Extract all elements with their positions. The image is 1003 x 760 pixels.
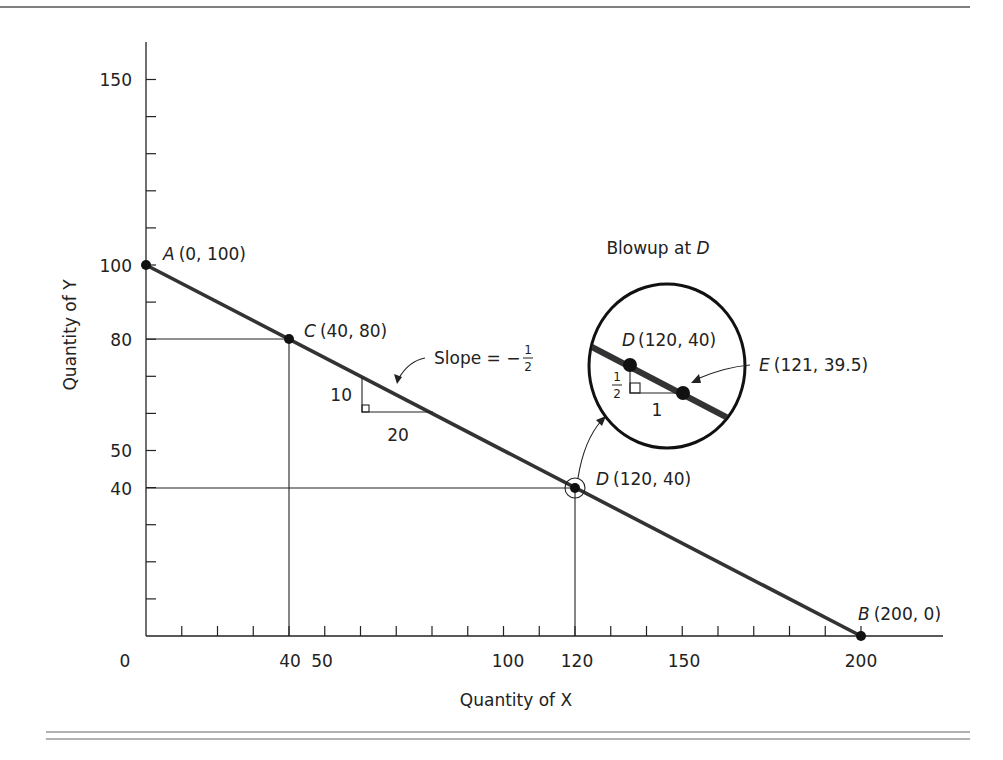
run-label: 20: [387, 425, 409, 445]
guide-lines: [146, 339, 575, 636]
point-A: [141, 260, 151, 270]
blowup-circle: [589, 284, 745, 448]
slope-frac-num: 1: [524, 343, 532, 357]
blowup-point-D: [623, 358, 637, 372]
blowup-rise-num: 1: [613, 370, 621, 384]
x-tick-120: 120: [561, 651, 593, 671]
blowup-point-E: [676, 386, 690, 400]
x-tick-200: 200: [845, 651, 877, 671]
y-tick-150: 150: [100, 70, 132, 90]
y-tick-50: 50: [110, 441, 132, 461]
point-D: [570, 483, 580, 493]
label-E: E(121, 39.5): [759, 355, 868, 375]
blowup-title: Blowup at D: [606, 238, 709, 258]
label-D: D(120, 40): [596, 469, 691, 489]
slope-frac-den: 2: [524, 360, 532, 374]
rise-label: 10: [330, 385, 352, 405]
slope-arrow: [399, 358, 425, 378]
slope-label: Slope = −: [434, 348, 520, 368]
y-tick-80: 80: [110, 330, 132, 350]
x-axis: [146, 626, 943, 636]
y-tick-40: 40: [110, 479, 132, 499]
x-tick-150: 150: [668, 651, 700, 671]
chart-canvas: 150 100 80 50 40 0 40 50 100 120 150 200…: [0, 0, 1003, 760]
x-axis-title: Quantity of X: [460, 690, 573, 710]
x-tick-40: 40: [279, 651, 301, 671]
point-B: [856, 631, 866, 641]
y-axis-title: Quantity of Y: [60, 279, 80, 391]
y-tick-100: 100: [100, 256, 132, 276]
x-tick-50: 50: [311, 651, 333, 671]
budget-line: [146, 265, 861, 636]
x-tick-0: 0: [120, 651, 131, 671]
blowup-rise-den: 2: [613, 387, 621, 401]
point-C: [284, 334, 294, 344]
label-B: B(200, 0): [858, 604, 941, 624]
x-tick-100: 100: [492, 651, 524, 671]
label-C: C(40, 80): [304, 321, 387, 341]
label-A: A(0, 100): [162, 244, 246, 264]
blowup-run: 1: [652, 400, 663, 420]
